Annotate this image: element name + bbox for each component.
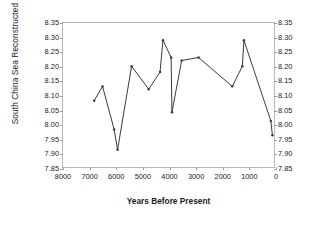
y-axis-tick-label-left: 8.05 (45, 107, 59, 114)
data-point-marker (241, 65, 243, 67)
y-axis-title: South China Sea Reconstructed pH (10, 0, 20, 130)
x-axis-tick-label: 5000 (135, 173, 151, 180)
data-point-marker (93, 100, 95, 102)
x-axis-tick-mark (63, 167, 64, 170)
y-axis-tick-label-right: 7.90 (278, 150, 292, 157)
data-point-marker (180, 59, 182, 61)
y-axis-tick-mark (60, 111, 63, 112)
chart-container: South China Sea Reconstructed pH 7.857.8… (0, 0, 326, 225)
data-point-marker (113, 128, 115, 130)
y-axis-tick-mark (274, 67, 277, 68)
data-point-marker (130, 65, 132, 67)
y-axis-tick-label-left: 7.90 (45, 150, 59, 157)
y-axis-tick-label-right: 8.35 (278, 19, 292, 26)
y-axis-tick-label-right: 8.00 (278, 121, 292, 128)
y-axis-tick-mark (274, 111, 277, 112)
x-axis-tick-label: 7000 (81, 173, 97, 180)
y-axis-tick-mark (60, 52, 63, 53)
data-point-marker (147, 88, 149, 90)
y-axis-tick-label-left: 8.25 (45, 48, 59, 55)
x-axis-tick-label: 6000 (108, 173, 124, 180)
x-axis-tick-mark (223, 167, 224, 170)
y-axis-tick-mark (60, 38, 63, 39)
y-axis-tick-label-left: 8.10 (45, 92, 59, 99)
y-axis-tick-label-left: 8.20 (45, 63, 59, 70)
x-axis-title: Years Before Present (62, 196, 275, 206)
y-axis-tick-mark (60, 96, 63, 97)
y-axis-tick-label-right: 8.25 (278, 48, 292, 55)
y-axis-tick-label-right: 7.85 (278, 165, 292, 172)
y-axis-tick-mark (274, 81, 277, 82)
x-axis-tick-label: 8000 (55, 173, 71, 180)
data-point-marker (116, 148, 118, 150)
x-axis-tick-mark (90, 167, 91, 170)
y-axis-tick-mark (274, 38, 277, 39)
y-axis-tick-mark (274, 125, 277, 126)
data-point-marker (270, 120, 272, 122)
x-axis-tick-label: 0 (274, 173, 278, 180)
data-point-marker (171, 111, 173, 113)
plot-area: 7.857.857.907.907.957.958.008.008.058.05… (62, 22, 275, 168)
y-axis-tick-mark (274, 52, 277, 53)
y-axis-tick-mark (60, 81, 63, 82)
series-line-chart (63, 23, 274, 167)
x-axis-tick-label: 2000 (215, 173, 231, 180)
y-axis-tick-label-left: 8.30 (45, 34, 59, 41)
data-point-marker (271, 134, 273, 136)
y-axis-tick-label-right: 8.10 (278, 92, 292, 99)
y-axis-tick-label-left: 7.95 (45, 136, 59, 143)
x-axis-tick-label: 3000 (188, 173, 204, 180)
x-axis-tick-mark (143, 167, 144, 170)
y-axis-tick-label-right: 7.95 (278, 136, 292, 143)
x-axis-tick-mark (249, 167, 250, 170)
y-axis-tick-mark (274, 96, 277, 97)
data-point-marker (170, 56, 172, 58)
data-point-marker (162, 39, 164, 41)
y-axis-tick-mark (60, 140, 63, 141)
y-axis-tick-mark (60, 125, 63, 126)
series-line (94, 40, 272, 149)
y-axis-tick-label-left: 8.00 (45, 121, 59, 128)
y-axis-tick-mark (274, 23, 277, 24)
x-axis-tick-label: 1000 (241, 173, 257, 180)
x-axis-tick-mark (170, 167, 171, 170)
x-axis-tick-mark (116, 167, 117, 170)
data-point-marker (159, 71, 161, 73)
x-axis-tick-mark (276, 167, 277, 170)
y-axis-tick-mark (60, 67, 63, 68)
y-axis-tick-mark (60, 154, 63, 155)
y-axis-tick-label-left: 8.15 (45, 77, 59, 84)
data-point-marker (101, 85, 103, 87)
y-axis-tick-mark (60, 23, 63, 24)
y-axis-tick-label-left: 8.35 (45, 19, 59, 26)
y-axis-tick-mark (274, 154, 277, 155)
x-axis-tick-label: 4000 (161, 173, 177, 180)
y-axis-tick-label-right: 8.15 (278, 77, 292, 84)
y-axis-tick-label-right: 8.30 (278, 34, 292, 41)
data-point-marker (231, 85, 233, 87)
y-axis-tick-label-right: 8.20 (278, 63, 292, 70)
y-axis-tick-label-right: 8.05 (278, 107, 292, 114)
y-axis-tick-mark (274, 140, 277, 141)
data-point-marker (197, 56, 199, 58)
x-axis-tick-mark (196, 167, 197, 170)
data-point-marker (243, 39, 245, 41)
